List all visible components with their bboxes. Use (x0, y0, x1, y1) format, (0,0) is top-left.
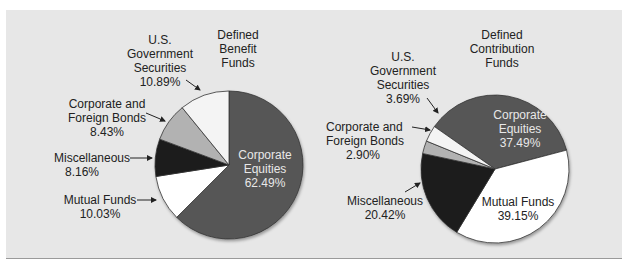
label-line: Corporate (230, 148, 300, 162)
label-line: Equities (485, 122, 555, 136)
title-line: Contribution (462, 42, 542, 56)
title-line: Funds (462, 56, 542, 70)
title-line: Defined (205, 28, 271, 42)
label-value: 37.49% (485, 136, 555, 150)
label-line: U.S. (363, 50, 443, 64)
right-label-mutual: Mutual Funds 39.15% (475, 195, 561, 223)
title-line: Funds (205, 56, 271, 70)
label-value: 10.03% (62, 207, 138, 221)
label-line: Securities (363, 78, 443, 92)
label-line: Miscellaneous (52, 151, 132, 165)
label-line: Mutual Funds (475, 195, 561, 209)
label-line: Equities (230, 162, 300, 176)
label-value: 3.69% (363, 92, 443, 106)
label-value: 8.43% (62, 125, 152, 139)
label-line: Government (120, 47, 200, 61)
left-label-us-gov: U.S. Government Securities 10.89% (120, 33, 200, 89)
title-line: Defined (462, 28, 542, 42)
label-line: Mutual Funds (62, 193, 138, 207)
label-value: 10.89% (120, 75, 200, 89)
right-chart-title: Defined Contribution Funds (462, 28, 542, 70)
left-label-misc: Miscellaneous 8.16% (52, 151, 132, 179)
label-value: 39.15% (475, 209, 561, 223)
right-label-misc: Miscellaneous 20.42% (345, 194, 425, 222)
left-label-bonds: Corporate and Foreign Bonds 8.43% (62, 97, 152, 139)
label-line: Government (363, 64, 443, 78)
left-chart-title: Defined Benefit Funds (205, 28, 271, 70)
label-line: Foreign Bonds (326, 134, 416, 148)
label-line: Securities (120, 61, 200, 75)
title-line: Benefit (205, 42, 271, 56)
label-line: Miscellaneous (345, 194, 425, 208)
left-label-mutual: Mutual Funds 10.03% (62, 193, 138, 221)
right-label-equities: Corporate Equities 37.49% (485, 108, 555, 150)
label-value: 20.42% (345, 208, 425, 222)
label-line: U.S. (120, 33, 200, 47)
label-line: Corporate (485, 108, 555, 122)
label-line: Foreign Bonds (62, 111, 152, 125)
label-line: Corporate and (62, 97, 152, 111)
label-value: 8.16% (32, 165, 132, 179)
left-label-equities: Corporate Equities 62.49% (230, 148, 300, 190)
right-label-bonds: Corporate and Foreign Bonds 2.90% (326, 120, 416, 162)
right-label-us-gov: U.S. Government Securities 3.69% (363, 50, 443, 106)
label-line: Corporate and (326, 120, 416, 134)
label-value: 62.49% (230, 176, 300, 190)
label-value: 2.90% (326, 148, 416, 162)
